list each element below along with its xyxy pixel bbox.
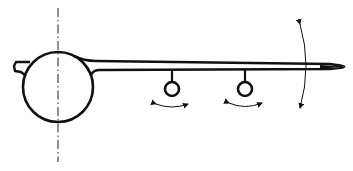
beam-pendulum-diagram (0, 0, 353, 171)
pendulum-2 (238, 70, 252, 96)
swing-arrow-2 (229, 103, 262, 107)
beam-top-edge (74, 56, 344, 67)
swing-arrow-1 (156, 104, 188, 107)
diagram-canvas (0, 0, 353, 171)
tip-bending-arc (300, 24, 306, 108)
pendulum-1 (165, 70, 179, 96)
